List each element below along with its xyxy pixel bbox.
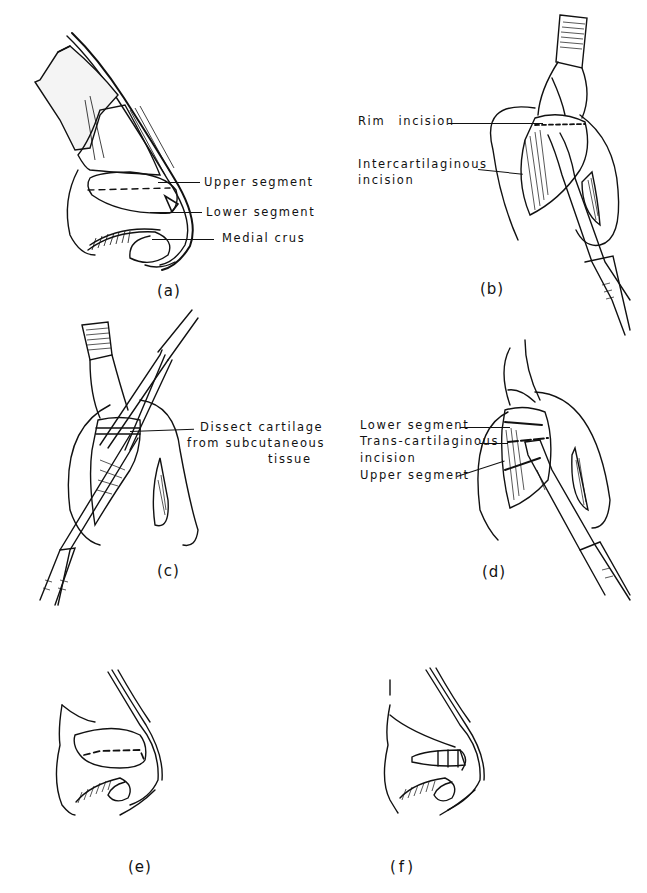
label-from-subcutaneous: from subcutaneous xyxy=(187,436,325,450)
caption-c: (c) xyxy=(157,562,180,580)
leader-line xyxy=(460,427,510,428)
panel-d: Lower segment Trans-cartilaginous incisi… xyxy=(330,330,647,610)
label-trans-cartilaginous: Trans-cartilaginous xyxy=(360,434,499,448)
label-upper-segment: Upper segment xyxy=(360,468,470,482)
leader-line xyxy=(480,443,508,444)
label-medial-crus: Medial crus xyxy=(222,231,305,245)
label-lower-segment: Lower segment xyxy=(360,418,469,432)
nose-lateral-view-illustration xyxy=(0,0,330,310)
label-intercartilaginous: Intercartilaginous xyxy=(358,157,488,171)
caption-d: (d) xyxy=(482,563,506,581)
label-dissect-cartilage: Dissect cartilage xyxy=(200,420,323,434)
leader-line xyxy=(150,212,202,213)
label-lower-segment: Lower segment xyxy=(206,205,315,219)
label-incision: incision xyxy=(360,451,416,465)
panel-e: (e) xyxy=(0,620,330,893)
label-rim-incision: Rim incision xyxy=(358,114,455,128)
caption-f: (f) xyxy=(390,858,416,876)
caption-b: (b) xyxy=(480,280,504,298)
panel-c: Dissect cartilage from subcutaneous tiss… xyxy=(0,310,330,610)
cartilage-strip-reposition-illustration xyxy=(330,620,647,893)
label-upper-segment: Upper segment xyxy=(204,175,314,189)
lower-segment-removal-illustration xyxy=(0,620,330,893)
panel-a: Upper segment Lower segment Medial crus … xyxy=(0,0,330,310)
panel-f: (f) xyxy=(330,620,647,893)
label-incision: incision xyxy=(358,173,414,187)
leader-line xyxy=(152,239,214,240)
caption-e: (e) xyxy=(128,858,152,876)
caption-a: (a) xyxy=(157,282,181,300)
panel-b: Rim incision Intercartilaginous incision… xyxy=(330,0,647,340)
label-tissue: tissue xyxy=(268,452,312,466)
leader-line xyxy=(158,182,200,183)
leader-line xyxy=(448,123,543,124)
